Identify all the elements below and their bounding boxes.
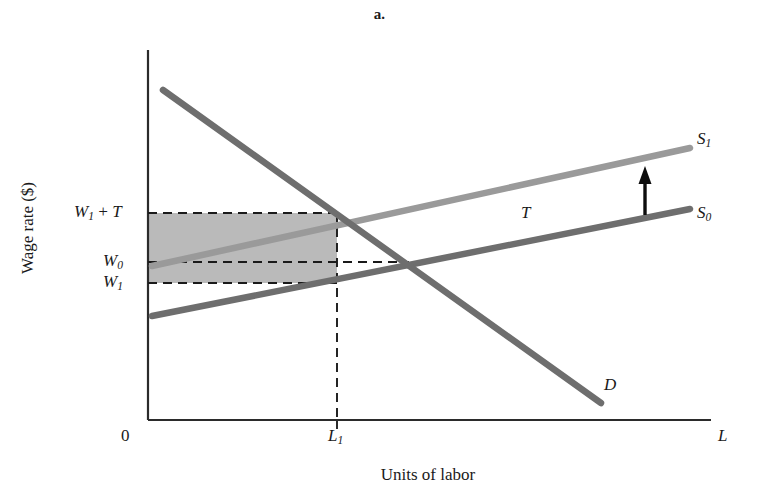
y-axis-title: Wage rate ($): [18, 138, 38, 318]
y-tick-label-w1-plus-t: W1 + T: [74, 202, 122, 223]
curve-label-s0: S0: [697, 203, 711, 224]
x-axis-title: Units of labor: [148, 465, 708, 485]
origin-label: 0: [121, 426, 130, 446]
y-tick-label-w0: W0: [103, 251, 123, 272]
x-tick-label-l1: L1: [328, 426, 343, 447]
supply-shift-arrow-icon: [639, 166, 652, 215]
economics-figure: a. Wage rate ($) Units of labor W1 + T: [0, 0, 759, 502]
curve-label-d: D: [604, 375, 616, 395]
panel-label: a.: [0, 6, 759, 23]
supply-curve-s1: [152, 148, 690, 266]
curve-label-s1: S1: [697, 129, 711, 150]
x-axis-end-label: L: [718, 426, 727, 446]
annotation-label-t: T: [521, 203, 530, 223]
y-tick-label-w1: W1: [103, 272, 123, 293]
